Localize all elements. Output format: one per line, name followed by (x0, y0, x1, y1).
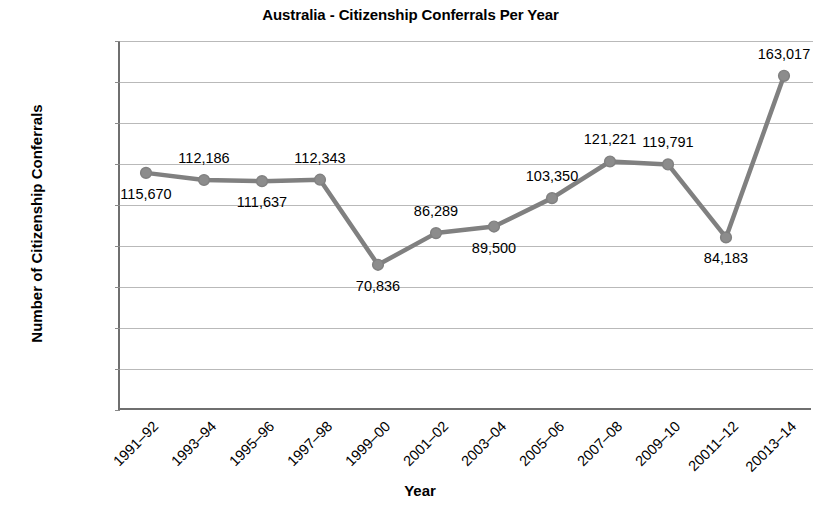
gridline (120, 328, 813, 329)
data-point-label: 121,221 (584, 131, 636, 147)
chart-title: Australia - Citizenship Conferrals Per Y… (0, 6, 821, 23)
data-point-label: 70,836 (356, 278, 400, 294)
plot-area (118, 41, 811, 410)
y-axis-tick (115, 205, 120, 206)
data-point-label: 89,500 (472, 240, 516, 256)
y-axis-title: Number of Citizenship Conferrals (28, 59, 45, 389)
y-axis-tick (115, 287, 120, 288)
y-axis-tick (115, 123, 120, 124)
gridline (120, 123, 813, 124)
data-point-label: 115,670 (120, 186, 171, 202)
data-point-label: 111,637 (237, 194, 287, 210)
gridline (120, 41, 813, 42)
y-axis-tick (115, 82, 120, 83)
gridline (120, 205, 813, 206)
y-axis-tick (115, 164, 120, 165)
data-point-label: 103,350 (526, 168, 578, 184)
gridline (120, 82, 813, 83)
y-axis-tick (115, 41, 120, 42)
data-point-label: 84,183 (704, 250, 748, 266)
data-point-label: 112,343 (294, 150, 345, 166)
gridline (120, 246, 813, 247)
y-axis-tick (115, 328, 120, 329)
data-point-label: 112,186 (178, 150, 229, 166)
x-axis-title: Year (320, 482, 520, 499)
y-axis-tick (115, 369, 120, 370)
y-axis-tick (115, 410, 120, 411)
data-point-label: 86,289 (414, 203, 458, 219)
gridline (120, 287, 813, 288)
data-point-label: 119,791 (642, 134, 693, 150)
gridline (120, 369, 813, 370)
chart-container: Australia - Citizenship Conferrals Per Y… (0, 0, 821, 507)
data-point-label: 163,017 (758, 46, 810, 62)
y-axis-tick (115, 246, 120, 247)
